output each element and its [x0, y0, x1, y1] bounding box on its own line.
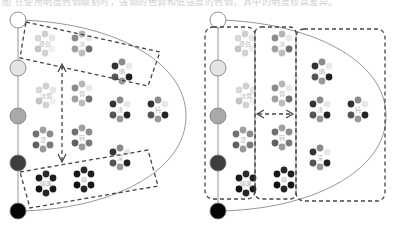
tone-dot — [274, 182, 281, 189]
tone-label: 淡弱 — [240, 92, 252, 100]
tone-cluster: 暗黑 — [36, 171, 57, 197]
tone-cluster: 苍白 — [35, 31, 56, 57]
tone-cluster: 淡 — [272, 31, 293, 57]
tone-cluster: 弱 — [72, 81, 93, 107]
right-column-group-outline — [296, 29, 385, 201]
tone-dot — [72, 46, 79, 53]
tone-dot — [233, 131, 240, 138]
tone-dot — [312, 63, 319, 70]
tone-dot — [286, 96, 293, 103]
tone-dot — [72, 140, 79, 147]
tone-dot — [43, 102, 50, 109]
tone-dot — [79, 144, 86, 151]
tone-dot — [310, 160, 317, 167]
tone-dot — [86, 85, 93, 92]
tone-dot — [286, 46, 293, 53]
lightness-scale-circle — [210, 203, 226, 219]
tone-dot — [110, 101, 117, 108]
tone-dot — [79, 81, 86, 88]
tone-dot — [124, 112, 131, 119]
tone-dot — [324, 160, 331, 167]
tone-dot — [317, 116, 324, 123]
tone-cluster: 暗 — [74, 167, 95, 193]
tone-dot — [81, 167, 88, 174]
tone-dot — [86, 46, 93, 53]
tone-cluster: 深 — [110, 145, 131, 171]
tone-dot — [88, 182, 95, 189]
tone-dot — [281, 186, 288, 193]
lightness-scale-circle — [210, 60, 226, 76]
tone-dot — [79, 125, 86, 132]
tone-cluster: 苍白 — [235, 31, 256, 57]
high-lightness-group-outline — [20, 22, 160, 86]
tone-dot — [324, 101, 331, 108]
tone-cluster: 钝 — [348, 97, 369, 123]
tone-label: 涩 — [240, 136, 246, 144]
tone-dot — [319, 59, 326, 66]
tone-label: 暗黑 — [40, 180, 52, 188]
tone-dot — [355, 97, 362, 104]
tone-cluster: 涩 — [33, 127, 54, 153]
lightness-scale-circle — [10, 108, 26, 124]
tone-cluster: 淡弱 — [36, 83, 57, 109]
tone-label: 钝 — [279, 134, 285, 141]
tone-dot — [279, 81, 286, 88]
tone-dot — [286, 35, 293, 42]
right-panel: 苍白淡明淡弱弱浅钝涩钝深暗黑暗 — [210, 12, 386, 219]
tone-dot — [279, 100, 286, 107]
tone-cluster: 涩 — [233, 127, 254, 153]
tone-dot — [326, 63, 333, 70]
tone-dot — [81, 186, 88, 193]
tone-cluster: 深 — [310, 145, 331, 171]
tone-dot — [324, 112, 331, 119]
tone-dot — [272, 96, 279, 103]
tone-dot — [43, 83, 50, 90]
tone-dot — [286, 85, 293, 92]
tone-dot — [117, 145, 124, 152]
tone-dot — [279, 125, 286, 132]
lightness-scale-circle — [210, 155, 226, 171]
tone-dot — [281, 167, 288, 174]
lightness-scale-circle — [10, 12, 26, 28]
tone-label: 暗 — [281, 176, 287, 184]
tone-dot — [286, 140, 293, 147]
tone-dot — [317, 97, 324, 104]
tone-dot — [242, 31, 249, 38]
tone-label: 淡弱 — [40, 92, 52, 100]
tone-dot — [72, 35, 79, 42]
tone-dot — [348, 101, 355, 108]
tone-dot — [319, 78, 326, 85]
tone-dot — [274, 171, 281, 178]
tone-dot — [88, 171, 95, 178]
tone-dot — [310, 101, 317, 108]
tone-dot — [272, 35, 279, 42]
tone-cluster: 浅 — [110, 97, 131, 123]
tone-label: 淡 — [79, 40, 85, 47]
tone-dot — [286, 129, 293, 136]
lightness-scale-circle — [10, 155, 26, 171]
tone-cluster: 明 — [312, 59, 333, 85]
tone-dot — [72, 129, 79, 136]
tone-label: 浅 — [117, 106, 123, 113]
tone-dot — [324, 149, 331, 156]
tone-dot — [74, 171, 81, 178]
tone-dot — [110, 112, 117, 119]
tone-cluster: 暗黑 — [236, 171, 257, 197]
tone-diagram: 苍白淡明淡弱弱浅钝涩钝深暗黑暗苍白淡明淡弱弱浅钝涩钝深暗黑暗 — [0, 0, 394, 228]
tone-dot — [247, 131, 254, 138]
tone-dot — [117, 164, 124, 171]
tone-dot — [112, 63, 119, 70]
tone-cluster: 浅 — [310, 97, 331, 123]
tone-dot — [110, 149, 117, 156]
tone-label: 明 — [319, 68, 325, 76]
tone-dot — [86, 129, 93, 136]
tone-dot — [40, 146, 47, 153]
tone-dot — [288, 182, 295, 189]
tone-label: 浅 — [317, 106, 323, 113]
tone-cluster: 钝 — [72, 125, 93, 151]
tone-dot — [43, 171, 50, 178]
tone-cluster: 钝 — [148, 97, 169, 123]
lightness-scale-circle — [210, 12, 226, 28]
tone-dot — [86, 96, 93, 103]
tone-dot — [42, 50, 49, 57]
